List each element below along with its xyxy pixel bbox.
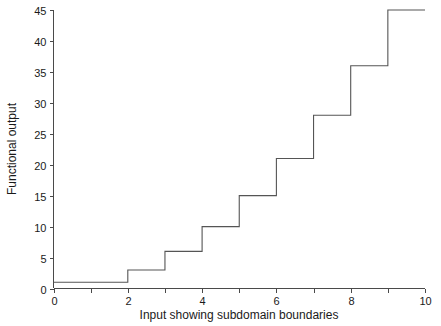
y-tick-label: 30 (34, 98, 46, 110)
x-tick-label: 10 (419, 295, 431, 307)
y-tick-label: 10 (34, 222, 46, 234)
y-axis-title: Functional output (5, 102, 19, 195)
y-tick-label: 0 (40, 284, 46, 296)
y-tick-label: 35 (34, 67, 46, 79)
y-tick-label: 15 (34, 191, 46, 203)
x-axis-title: Input showing subdomain boundaries (140, 308, 339, 322)
x-tick-label: 6 (273, 295, 279, 307)
y-tick-label: 45 (34, 5, 46, 17)
x-tick-label: 2 (125, 295, 131, 307)
y-tick-label: 5 (40, 253, 46, 265)
x-tick-label: 4 (199, 295, 205, 307)
chart-background (0, 0, 441, 326)
y-tick-label: 25 (34, 129, 46, 141)
chart-canvas: 051015202530354045 0246810 Input showing… (0, 0, 441, 326)
y-tick-label: 20 (34, 160, 46, 172)
x-tick-label: 0 (51, 295, 57, 307)
x-tick-label: 8 (348, 295, 354, 307)
step-chart-figure: 051015202530354045 0246810 Input showing… (0, 0, 441, 326)
y-tick-label: 40 (34, 36, 46, 48)
